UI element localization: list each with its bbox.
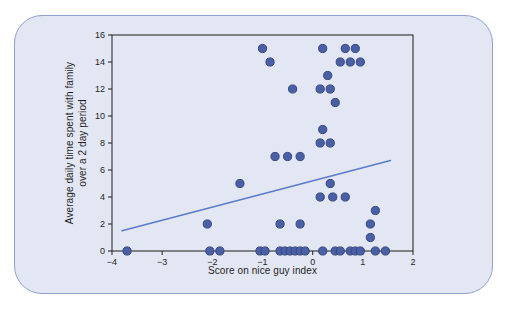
y-tick-label: 0	[100, 246, 105, 256]
data-point	[266, 58, 274, 66]
data-point	[319, 247, 327, 255]
data-point	[123, 247, 131, 255]
y-tick-label: 6	[100, 165, 105, 175]
data-point	[203, 220, 211, 228]
data-point	[351, 44, 359, 52]
data-point	[216, 247, 224, 255]
data-point	[289, 85, 297, 93]
data-point	[319, 44, 327, 52]
y-tick-label: 12	[95, 84, 105, 94]
axes: 0246810121416−4−3−2−1012	[95, 30, 416, 267]
data-point	[258, 44, 266, 52]
y-tick-label: 2	[100, 219, 105, 229]
data-point	[366, 220, 374, 228]
data-point	[236, 179, 244, 187]
data-point	[336, 247, 344, 255]
y-tick-label: 16	[95, 30, 105, 40]
data-point	[371, 206, 379, 214]
data-point	[283, 152, 291, 160]
data-point	[356, 247, 364, 255]
data-point	[316, 85, 324, 93]
trend-line	[122, 161, 390, 231]
data-point	[276, 220, 284, 228]
y-tick-label: 10	[95, 111, 105, 121]
data-point	[319, 125, 327, 133]
data-point	[301, 247, 309, 255]
data-point	[371, 247, 379, 255]
data-point	[316, 193, 324, 201]
y-axis-label: Average daily time spent with family ove…	[63, 22, 89, 264]
y-tick-label: 8	[100, 138, 105, 148]
data-point	[296, 152, 304, 160]
data-points	[123, 44, 390, 255]
data-point	[271, 152, 279, 160]
data-point	[346, 58, 354, 66]
figure-screenshot: 0246810121416−4−3−2−1012 Average daily t…	[0, 0, 508, 312]
y-tick-label: 4	[100, 192, 105, 202]
data-point	[316, 139, 324, 147]
data-point	[381, 247, 389, 255]
data-point	[356, 58, 364, 66]
data-point	[329, 193, 337, 201]
data-point	[326, 85, 334, 93]
x-axis-label: Score on nice guy index	[112, 265, 413, 276]
data-point	[366, 233, 374, 241]
trend-line-group	[122, 161, 390, 231]
y-tick-label: 14	[95, 57, 105, 67]
data-point	[336, 58, 344, 66]
data-point	[326, 139, 334, 147]
data-point	[296, 220, 304, 228]
data-point	[206, 247, 214, 255]
data-point	[326, 179, 334, 187]
data-point	[331, 98, 339, 106]
data-point	[341, 44, 349, 52]
data-point	[341, 193, 349, 201]
data-point	[261, 247, 269, 255]
plot-box	[112, 35, 413, 251]
data-point	[324, 71, 332, 79]
